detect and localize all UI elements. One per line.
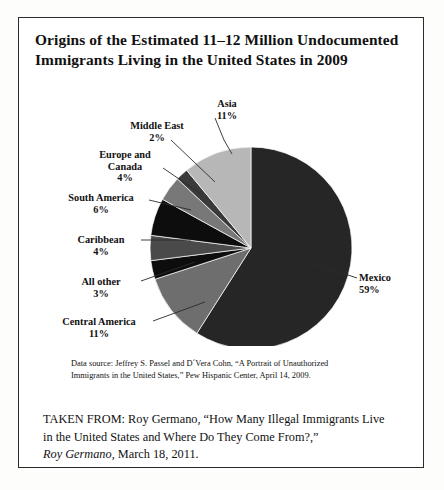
slice-label-middle-east-name: Middle East [105,120,209,132]
slice-label-middle-east: Middle East 2% [105,120,209,143]
figure-frame: Origins of the Estimated 11–12 Million U… [18,17,424,468]
slice-label-south-america-name: South America [37,192,165,204]
slice-label-caribbean-name: Caribbean [37,234,165,246]
slice-label-central-america-pct: 11% [31,328,167,340]
title-line-2: Immigrants Living in the United States i… [35,50,411,70]
figure-page: Origins of the Estimated 11–12 Million U… [0,0,444,490]
slice-label-middle-east-pct: 2% [105,132,209,144]
taken-from-line-2: in the United States and Where Do They C… [43,429,415,447]
data-source-note: Data source: Jeffrey S. Passel and D´Ver… [71,358,401,383]
slice-label-europe-canada-name-1: Europe and [71,149,179,161]
slice-label-europe-canada: Europe and Canada 4% [71,149,179,184]
pie-slices [150,147,352,346]
slice-label-mexico-name: Mexico [359,272,439,284]
slice-label-south-america-pct: 6% [37,204,165,216]
slice-label-mexico: Mexico 59% [359,272,439,295]
leader-line-asia [215,118,232,154]
taken-from-line-1: TAKEN FROM: Roy Germano, “How Many Illeg… [43,411,415,429]
slice-label-asia: Asia 11% [189,98,265,121]
slice-label-europe-canada-name-2: Canada [71,161,179,173]
slice-label-europe-canada-pct: 4% [71,172,179,184]
taken-from-date: , March 18, 2011. [112,447,199,461]
taken-from-line-3: Roy Germano, March 18, 2011. [43,446,415,464]
page-title: Origins of the Estimated 11–12 Million U… [35,30,411,70]
slice-label-mexico-pct: 59% [359,284,439,296]
slice-label-central-america-name: Central America [31,316,167,328]
data-source-line-2: Immigrants in the United States,” Pew Hi… [71,370,401,382]
slice-label-all-other-name: All other [37,276,165,288]
taken-from-note: TAKEN FROM: Roy Germano, “How Many Illeg… [43,411,415,464]
slice-label-south-america: South America 6% [37,192,165,215]
pie-chart: Asia 11% Middle East 2% Europe and Canad… [19,76,423,346]
slice-label-caribbean-pct: 4% [37,246,165,258]
data-source-line-1: Data source: Jeffrey S. Passel and D´Ver… [71,358,401,370]
title-line-1: Origins of the Estimated 11–12 Million U… [35,30,411,50]
slice-label-asia-name: Asia [189,98,265,110]
slice-label-central-america: Central America 11% [31,316,167,339]
taken-from-author: Roy Germano [43,447,112,461]
slice-label-all-other-pct: 3% [37,288,165,300]
slice-label-caribbean: Caribbean 4% [37,234,165,257]
slice-label-all-other: All other 3% [37,276,165,299]
